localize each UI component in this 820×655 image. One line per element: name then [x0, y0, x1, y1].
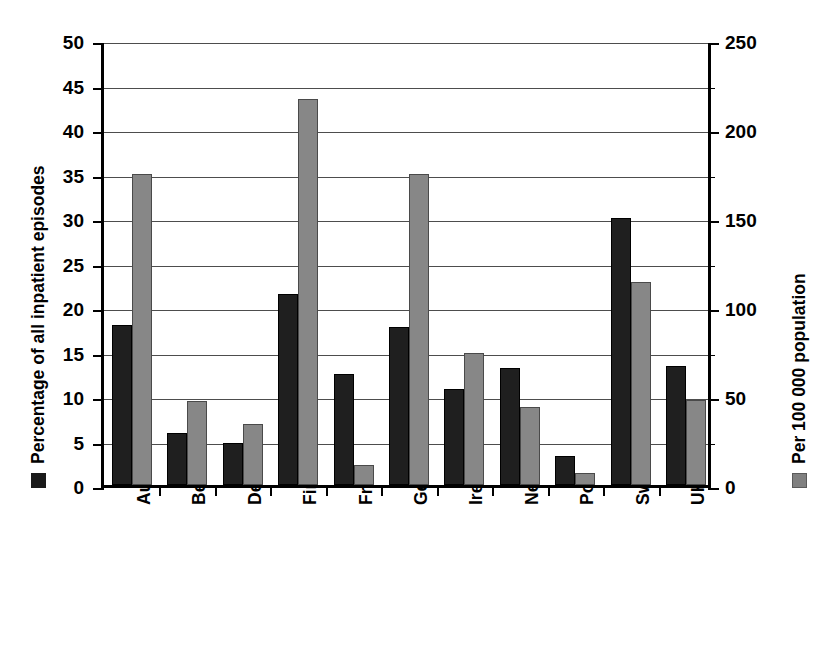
- right-axis-tick: [708, 43, 719, 45]
- right-axis-tick-label: 200: [725, 122, 777, 141]
- left-axis-tick-label: 15: [38, 345, 84, 364]
- bar-per-population: [686, 400, 706, 485]
- left-axis-tick: [93, 399, 104, 401]
- x-axis-tick: [159, 485, 161, 496]
- right-axis-minor-tick: [708, 266, 715, 267]
- left-axis-tick-label: 0: [38, 478, 84, 497]
- gridline: [104, 132, 708, 133]
- bar-per-population: [409, 174, 429, 486]
- left-axis-tick-label: 10: [38, 389, 84, 408]
- bar-per-population: [464, 353, 484, 485]
- right-axis-tick-label: 50: [725, 389, 777, 408]
- bar-percentage: [611, 218, 631, 485]
- legend-swatch-per-population: [792, 473, 807, 488]
- x-axis-tick: [603, 485, 605, 496]
- bar-percentage: [389, 327, 409, 485]
- right-axis-tick: [708, 310, 719, 312]
- x-axis-tick: [326, 485, 328, 496]
- left-axis-tick-label: 5: [38, 434, 84, 453]
- left-axis-tick: [93, 266, 104, 268]
- dual-axis-bar-chart: Percentage of all inpatient episodes Per…: [0, 0, 820, 655]
- bar-per-population: [520, 407, 540, 485]
- left-axis-tick: [93, 444, 104, 446]
- right-axis-tick: [708, 132, 719, 134]
- left-axis-tick: [93, 88, 104, 90]
- x-axis-tick: [659, 485, 661, 496]
- left-axis-tick-label: 30: [38, 211, 84, 230]
- bar-percentage: [112, 325, 132, 485]
- right-axis-title-text: Per 100 000 population: [791, 273, 809, 464]
- x-axis-tick: [215, 485, 217, 496]
- bar-percentage: [555, 456, 575, 485]
- left-axis-tick-label: 35: [38, 167, 84, 186]
- x-axis-tick: [437, 485, 439, 496]
- x-axis-tick: [548, 485, 550, 496]
- gridline: [104, 88, 708, 89]
- right-axis-title: Per 100 000 population: [791, 273, 809, 488]
- left-axis-tick: [93, 132, 104, 134]
- bar-percentage: [334, 374, 354, 485]
- left-axis-tick-label: 45: [38, 78, 84, 97]
- right-axis-minor-tick: [708, 88, 715, 89]
- bar-per-population: [354, 465, 374, 485]
- bar-percentage: [666, 366, 686, 485]
- left-axis-tick-label: 50: [38, 33, 84, 52]
- right-axis-minor-tick: [708, 355, 715, 356]
- bar-percentage: [500, 368, 520, 485]
- left-axis-tick: [93, 221, 104, 223]
- x-axis-tick: [492, 485, 494, 496]
- left-axis-tick: [93, 355, 104, 357]
- left-axis-tick: [93, 310, 104, 312]
- bar-per-population: [243, 424, 263, 485]
- left-axis-tick-label: 40: [38, 122, 84, 141]
- x-axis-tick: [381, 485, 383, 496]
- left-axis-tick: [93, 177, 104, 179]
- bar-per-population: [132, 174, 152, 486]
- gridline: [104, 43, 708, 44]
- left-axis-tick: [93, 43, 104, 45]
- bar-percentage: [223, 443, 243, 485]
- x-axis-tick: [270, 485, 272, 496]
- bar-per-population: [187, 401, 207, 485]
- right-axis-minor-tick: [708, 444, 715, 445]
- bar-percentage: [278, 294, 298, 485]
- left-axis-tick: [93, 488, 104, 490]
- bar-per-population: [575, 473, 595, 485]
- right-axis-tick: [708, 399, 719, 401]
- right-axis-minor-tick: [708, 177, 715, 178]
- left-axis-tick-label: 20: [38, 300, 84, 319]
- right-axis-tick: [708, 488, 719, 490]
- plot-area: [101, 43, 711, 488]
- right-axis-tick-label: 0: [725, 478, 777, 497]
- bar-percentage: [444, 389, 464, 485]
- left-axis-tick-label: 25: [38, 256, 84, 275]
- right-axis-tick: [708, 221, 719, 223]
- gridline: [104, 177, 708, 178]
- bar-per-population: [631, 282, 651, 485]
- right-axis-tick-label: 150: [725, 211, 777, 230]
- bar-percentage: [167, 433, 187, 486]
- right-axis-tick-label: 250: [725, 33, 777, 52]
- right-axis-tick-label: 100: [725, 300, 777, 319]
- bar-per-population: [298, 99, 318, 485]
